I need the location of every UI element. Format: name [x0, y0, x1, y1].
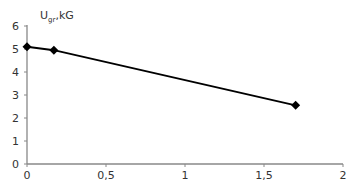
x-tick-label: 1 [182, 169, 189, 182]
x-tick-label: 0,5 [97, 169, 115, 182]
data-point-diamond [291, 101, 300, 110]
line-chart: 0123456 00,511,52 Ugr,kG [0, 0, 354, 191]
x-tick-label: 2 [340, 169, 347, 182]
data-point-diamond [23, 42, 32, 51]
x-tick-label: 1,5 [255, 169, 273, 182]
y-axis-ticks: 0123456 [12, 20, 27, 171]
y-tick-label: 0 [12, 158, 19, 171]
y-tick-label: 3 [12, 89, 19, 102]
x-axis-ticks: 00,511,52 [24, 164, 347, 182]
y-tick-label: 1 [12, 135, 19, 148]
y-tick-label: 6 [12, 20, 19, 33]
y-tick-label: 4 [12, 66, 19, 79]
x-tick-label: 0 [24, 169, 31, 182]
axes [27, 25, 343, 164]
y-axis-label: Ugr,kG [40, 9, 74, 24]
data-point-diamond [49, 46, 58, 55]
y-tick-label: 2 [12, 112, 19, 125]
y-tick-label: 5 [12, 43, 19, 56]
series-line [27, 47, 296, 106]
data-series [23, 42, 301, 110]
